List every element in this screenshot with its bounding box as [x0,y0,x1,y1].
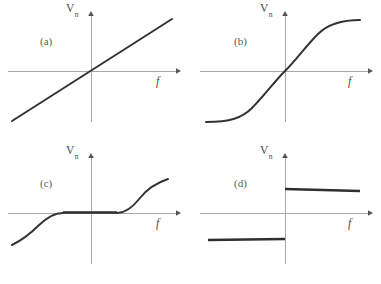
panel-d-plot [190,142,381,284]
panel-a-linear: Vn f (a) [0,0,190,142]
panel-a-plot [0,0,190,142]
curve-deadzone-left-branch [12,213,63,245]
y-axis-arrow-icon [88,153,94,158]
x-axis-label: f [156,75,159,87]
y-axis-label: Vn [66,145,78,159]
x-axis-label: f [348,217,351,229]
panel-b-plot [190,0,381,142]
curve-step-upper-segment [285,189,360,191]
figure-panel-grid: Vn f (a) Vn f (b) Vn f (c) [0,0,381,284]
y-axis-label: Vn [260,145,272,159]
panel-c-plot [0,142,190,284]
x-axis-arrow-icon [368,68,373,74]
panel-tag-b: (b) [234,36,247,47]
panel-tag-c: (c) [40,178,52,189]
curve-deadzone-right-branch [117,179,168,213]
panel-d-sign-step: Vn f (d) [190,142,381,284]
curve-linear [12,19,172,121]
x-axis-label: f [156,217,159,229]
x-axis-arrow-icon [368,210,373,216]
curve-step-lower-segment [208,239,285,240]
panel-tag-d: (d) [234,178,247,189]
y-axis-arrow-icon [282,11,288,16]
x-axis-arrow-icon [176,210,181,216]
x-axis-arrow-icon [176,68,181,74]
panel-b-sigmoid: Vn f (b) [190,0,381,142]
y-axis-label: Vn [260,3,272,17]
panel-tag-a: (a) [40,36,52,47]
y-axis-arrow-icon [88,11,94,16]
y-axis-arrow-icon [282,153,288,158]
panel-c-deadzone: Vn f (c) [0,142,190,284]
y-axis-label: Vn [66,3,78,17]
x-axis-label: f [348,75,351,87]
